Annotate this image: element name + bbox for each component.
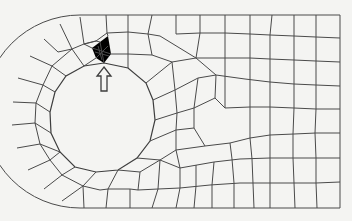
spoke [100,189,108,190]
spoke [80,17,84,44]
arrow-up-icon [97,67,111,91]
row [205,133,340,146]
ring-top-inner [111,54,172,62]
spoke [106,15,107,33]
spoke [52,66,66,76]
fe-mesh-diagram [0,0,352,221]
column [293,15,295,208]
spoke [17,144,40,148]
column [315,15,317,208]
spoke [60,24,72,49]
row [196,58,340,62]
transition [155,98,215,120]
spoke [83,172,96,186]
spoke [28,160,50,170]
spoke [83,186,84,208]
spoke [106,189,108,208]
spoke [62,167,75,175]
spoke [43,85,55,92]
transition [150,128,194,141]
spoke [44,175,62,189]
spoke [148,34,152,55]
transition [153,75,216,100]
mesh-grid [0,15,340,208]
ring-mid [35,85,100,190]
column [270,15,272,208]
spoke [108,170,118,189]
column [230,143,234,208]
row [216,75,340,86]
spoke [30,56,52,66]
spoke [148,15,152,34]
spoke [18,78,43,85]
transition [137,146,205,160]
outer-boundary [0,15,340,208]
spoke [62,186,83,201]
spoke [50,152,60,160]
spoke [44,39,58,52]
row [176,33,340,38]
spoke [36,103,50,112]
spoke [13,102,36,103]
row [225,107,340,109]
column [250,15,254,208]
spoke [72,49,84,66]
spoke [12,123,35,125]
refined-region [84,33,111,66]
column [196,15,200,58]
